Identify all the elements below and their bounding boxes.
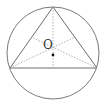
inscribed-triangle [10,7,97,68]
center-label: O [43,38,53,52]
diagram-canvas: O [0,0,104,105]
geometry-figure: O [0,0,104,105]
center-point [52,54,55,57]
median-from-bottom-right [31,37,97,68]
